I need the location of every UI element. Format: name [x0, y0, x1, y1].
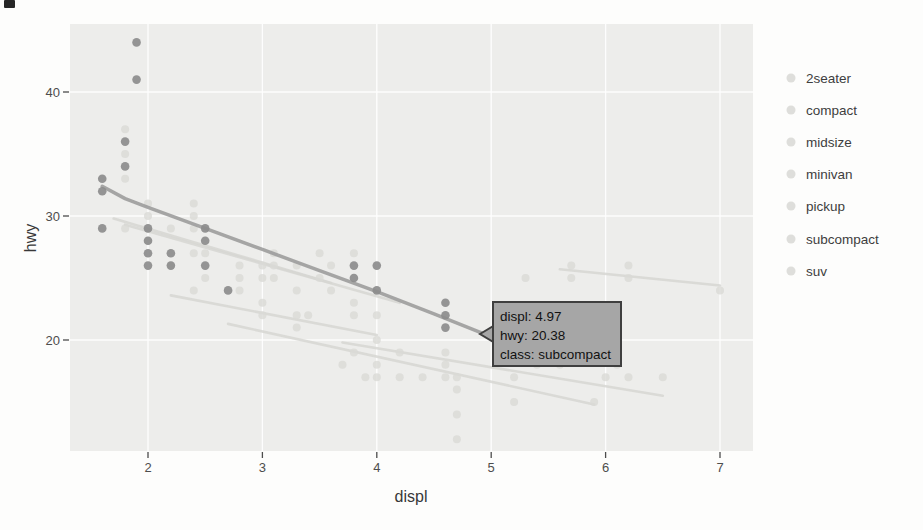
data-point-subcompact[interactable] — [201, 261, 210, 270]
data-point-subcompact[interactable] — [373, 286, 382, 295]
data-point-subcompact[interactable] — [224, 286, 233, 295]
data-point-dimmed[interactable] — [419, 373, 427, 381]
legend-item-label[interactable]: midsize — [806, 135, 852, 150]
data-point-dimmed[interactable] — [624, 262, 632, 270]
data-point-subcompact[interactable] — [144, 237, 153, 246]
data-point-dimmed[interactable] — [121, 175, 129, 183]
data-point-dimmed[interactable] — [373, 361, 381, 369]
data-point-dimmed[interactable] — [258, 311, 266, 319]
data-point-subcompact[interactable] — [132, 38, 141, 47]
legend-item-label[interactable]: minivan — [806, 167, 853, 182]
data-point-dimmed[interactable] — [327, 262, 335, 270]
data-point-dimmed[interactable] — [567, 262, 575, 270]
data-point-subcompact[interactable] — [144, 261, 153, 270]
data-point-dimmed[interactable] — [201, 249, 209, 257]
data-point-dimmed[interactable] — [270, 262, 278, 270]
data-point-dimmed[interactable] — [624, 373, 632, 381]
data-point-subcompact[interactable] — [441, 311, 450, 320]
data-point-dimmed[interactable] — [316, 249, 324, 257]
data-point-subcompact[interactable] — [167, 261, 176, 270]
data-point-dimmed[interactable] — [441, 361, 449, 369]
data-point-dimmed[interactable] — [522, 274, 530, 282]
data-point-dimmed[interactable] — [396, 348, 404, 356]
data-point-subcompact[interactable] — [98, 187, 107, 196]
data-point-subcompact[interactable] — [167, 249, 176, 258]
legend-item-label[interactable]: subcompact — [806, 232, 879, 247]
data-point-dimmed[interactable] — [236, 262, 244, 270]
data-point-dimmed[interactable] — [350, 311, 358, 319]
legend-item-label[interactable]: suv — [806, 264, 827, 279]
legend-item-2seater[interactable]: 2seater — [787, 71, 852, 86]
data-point-subcompact[interactable] — [350, 261, 359, 270]
legend-key-dot — [787, 202, 796, 211]
data-point-subcompact[interactable] — [373, 261, 382, 270]
data-point-dimmed[interactable] — [121, 224, 129, 232]
legend-item-compact[interactable]: compact — [787, 103, 858, 118]
data-point-dimmed[interactable] — [350, 348, 358, 356]
data-point-dimmed[interactable] — [258, 299, 266, 307]
data-point-dimmed[interactable] — [361, 373, 369, 381]
legend-item-label[interactable]: pickup — [806, 199, 845, 214]
data-point-dimmed[interactable] — [510, 398, 518, 406]
data-point-dimmed[interactable] — [590, 398, 598, 406]
legend-item-suv[interactable]: suv — [787, 264, 828, 279]
data-point-subcompact[interactable] — [98, 224, 107, 233]
data-point-dimmed[interactable] — [624, 274, 632, 282]
data-point-dimmed[interactable] — [659, 373, 667, 381]
data-point-dimmed[interactable] — [327, 286, 335, 294]
data-point-dimmed[interactable] — [373, 336, 381, 344]
data-point-dimmed[interactable] — [304, 311, 312, 319]
data-point-dimmed[interactable] — [258, 274, 266, 282]
data-point-dimmed[interactable] — [236, 286, 244, 294]
data-point-dimmed[interactable] — [270, 274, 278, 282]
legend-item-minivan[interactable]: minivan — [787, 167, 853, 182]
data-point-dimmed[interactable] — [258, 262, 266, 270]
data-point-dimmed[interactable] — [293, 286, 301, 294]
data-point-subcompact[interactable] — [441, 323, 450, 332]
data-point-dimmed[interactable] — [441, 373, 449, 381]
legend-item-label[interactable]: compact — [806, 103, 857, 118]
data-point-dimmed[interactable] — [350, 249, 358, 257]
legend-item-midsize[interactable]: midsize — [787, 135, 852, 150]
data-point-subcompact[interactable] — [350, 274, 359, 283]
legend-item-label[interactable]: 2seater — [806, 71, 852, 86]
data-point-subcompact[interactable] — [121, 137, 130, 146]
data-point-dimmed[interactable] — [190, 212, 198, 220]
data-point-dimmed[interactable] — [190, 249, 198, 257]
data-point-dimmed[interactable] — [236, 274, 244, 282]
data-point-subcompact[interactable] — [441, 299, 450, 308]
data-point-dimmed[interactable] — [121, 150, 129, 158]
data-point-subcompact[interactable] — [121, 162, 130, 171]
data-point-subcompact[interactable] — [98, 175, 107, 184]
data-point-dimmed[interactable] — [396, 373, 404, 381]
data-point-dimmed[interactable] — [441, 348, 449, 356]
data-point-dimmed[interactable] — [293, 324, 301, 332]
data-point-dimmed[interactable] — [121, 125, 129, 133]
data-point-dimmed[interactable] — [716, 286, 724, 294]
data-point-dimmed[interactable] — [338, 361, 346, 369]
data-point-dimmed[interactable] — [144, 212, 152, 220]
legend-item-subcompact[interactable]: subcompact — [787, 232, 880, 247]
data-point-dimmed[interactable] — [316, 274, 324, 282]
data-point-subcompact[interactable] — [144, 249, 153, 258]
data-point-dimmed[interactable] — [201, 274, 209, 282]
data-point-subcompact[interactable] — [201, 237, 210, 246]
data-point-dimmed[interactable] — [373, 311, 381, 319]
data-point-dimmed[interactable] — [190, 200, 198, 208]
data-point-subcompact[interactable] — [201, 224, 210, 233]
data-point-dimmed[interactable] — [293, 311, 301, 319]
data-point-dimmed[interactable] — [350, 299, 358, 307]
data-point-dimmed[interactable] — [453, 435, 461, 443]
data-point-dimmed[interactable] — [453, 386, 461, 394]
data-point-dimmed[interactable] — [453, 373, 461, 381]
data-point-dimmed[interactable] — [167, 224, 175, 232]
data-point-dimmed[interactable] — [190, 286, 198, 294]
data-point-dimmed[interactable] — [453, 410, 461, 418]
data-point-dimmed[interactable] — [602, 373, 610, 381]
data-point-subcompact[interactable] — [144, 224, 153, 233]
data-point-dimmed[interactable] — [373, 373, 381, 381]
data-point-dimmed[interactable] — [510, 373, 518, 381]
legend-item-pickup[interactable]: pickup — [787, 199, 846, 214]
data-point-dimmed[interactable] — [567, 274, 575, 282]
data-point-subcompact[interactable] — [132, 75, 141, 84]
